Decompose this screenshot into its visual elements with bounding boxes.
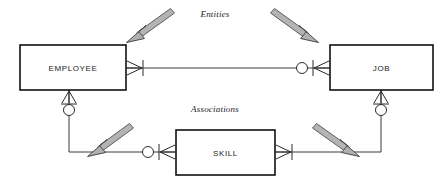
er-diagram: EMPLOYEE JOB SKILL (0, 0, 446, 191)
cardinality-skill-job-many-icon (276, 144, 292, 160)
cardinality-skill-employee-zero-many-icon (143, 144, 176, 160)
relationship-line-skill-job (275, 90, 381, 152)
entity-label-skill: SKILL (213, 149, 238, 158)
entity-label-employee: EMPLOYEE (49, 64, 98, 73)
entity-job[interactable]: JOB (330, 45, 433, 90)
callout-arrow-entities-right-icon (271, 9, 319, 43)
callout-label-entities: Entities (199, 9, 229, 19)
callout-arrow-entities-left-icon (127, 9, 175, 43)
entity-label-job: JOB (373, 64, 390, 73)
er-diagram-canvas: EMPLOYEE JOB SKILL (0, 0, 446, 191)
callout-label-associations: Associations (190, 104, 239, 114)
entity-skill[interactable]: SKILL (176, 130, 275, 175)
cardinality-employee-job-many-icon (127, 60, 143, 76)
entity-employee[interactable]: EMPLOYEE (20, 45, 126, 90)
relationship-line-employee-skill (69, 90, 176, 152)
cardinality-job-employee-zero-many-icon (297, 60, 330, 76)
